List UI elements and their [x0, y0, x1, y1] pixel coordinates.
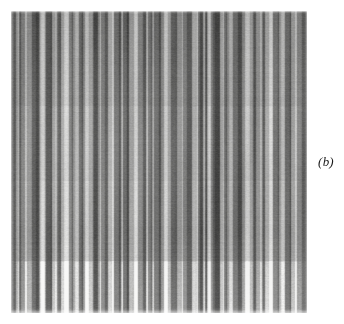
striation-plate-canvas	[11, 11, 307, 313]
panel-label: (b)	[311, 154, 341, 170]
figure-panel: (b)	[0, 0, 344, 324]
striation-plate	[11, 11, 307, 313]
